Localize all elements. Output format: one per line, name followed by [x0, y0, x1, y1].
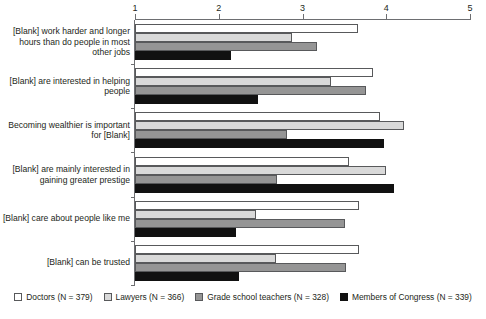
legend-swatch-icon	[340, 293, 348, 301]
bar	[135, 42, 317, 51]
x-axis-tick-label: 3	[300, 3, 305, 13]
bar-group	[135, 153, 470, 197]
legend-item[interactable]: Doctors (N = 379)	[14, 292, 92, 302]
bar-group	[135, 108, 470, 152]
x-axis-tick-label: 5	[467, 3, 472, 13]
bar	[135, 263, 346, 272]
bar	[135, 139, 384, 148]
grouped-bar-chart: 12345 [Blank] work harder and longer hou…	[0, 0, 486, 319]
category-label: [Blank] care about people like me	[2, 213, 130, 224]
bar	[135, 175, 277, 184]
bar	[135, 245, 359, 254]
legend-swatch-icon	[195, 293, 203, 301]
x-axis-tick-label: 1	[132, 3, 137, 13]
bar	[135, 272, 239, 281]
legend-item[interactable]: Members of Congress (N = 339)	[340, 292, 472, 302]
bar-group	[135, 241, 470, 285]
bar	[135, 184, 394, 193]
x-axis-tick-label: 4	[384, 3, 389, 13]
category-label: [Blank] are interested in helping people	[2, 76, 130, 97]
bar	[135, 33, 292, 42]
bar	[135, 254, 276, 263]
x-axis: 12345	[135, 6, 470, 20]
bar-group	[135, 20, 470, 64]
legend-label: Doctors (N = 379)	[26, 292, 92, 302]
category-label: Becoming wealthier is important for [Bla…	[2, 120, 130, 141]
x-axis-tick-label: 2	[216, 3, 221, 13]
bar	[135, 157, 349, 166]
bar	[135, 121, 404, 130]
legend-item[interactable]: Grade school teachers (N = 328)	[195, 292, 329, 302]
legend-label: Members of Congress (N = 339)	[352, 292, 472, 302]
bar	[135, 77, 331, 86]
bar-group	[135, 64, 470, 108]
bar	[135, 112, 380, 121]
bar	[135, 68, 373, 77]
bar	[135, 166, 386, 175]
bar	[135, 219, 345, 228]
bar	[135, 228, 236, 237]
legend-swatch-icon	[14, 293, 22, 301]
bar	[135, 130, 287, 139]
category-label: [Blank] can be trusted	[2, 257, 130, 268]
legend-item[interactable]: Lawyers (N = 366)	[104, 292, 185, 302]
bar	[135, 24, 358, 33]
legend: Doctors (N = 379)Lawyers (N = 366)Grade …	[0, 292, 486, 302]
plot-area	[135, 20, 470, 285]
category-tick	[131, 285, 135, 286]
bar	[135, 86, 366, 95]
bar	[135, 51, 231, 60]
legend-label: Grade school teachers (N = 328)	[207, 292, 329, 302]
bar-group	[135, 197, 470, 241]
bar	[135, 210, 256, 219]
category-label: [Blank] work harder and longer hours tha…	[2, 26, 130, 58]
legend-label: Lawyers (N = 366)	[116, 292, 185, 302]
bar	[135, 95, 258, 104]
category-labels: [Blank] work harder and longer hours tha…	[0, 20, 130, 285]
legend-swatch-icon	[104, 293, 112, 301]
category-label: [Blank] are mainly interested in gaining…	[2, 164, 130, 185]
bar	[135, 201, 359, 210]
x-axis-tick	[470, 14, 471, 20]
